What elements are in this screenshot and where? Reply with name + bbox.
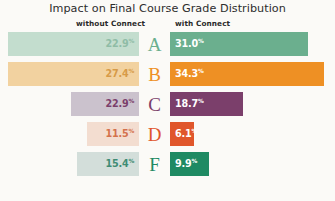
grade-letter: C [139, 90, 170, 120]
bar-value-without-connect: 11.5% [106, 129, 134, 139]
chart-title: Impact on Final Course Grade Distributio… [0, 2, 335, 15]
with-connect-bar-group: 18.7% [170, 92, 243, 116]
bar-value-without-connect: 22.9% [106, 39, 134, 49]
bar-with-connect: 9.9% [170, 152, 209, 176]
with-connect-bar-group: 6.1% [170, 122, 194, 146]
bar-value-without-connect: 27.4% [106, 69, 134, 79]
bar-without-connect: 22.9% [71, 92, 139, 116]
percent-sign: % [198, 98, 204, 104]
bar-with-connect: 31.0% [170, 32, 308, 56]
bar-with-connect: 34.3% [170, 62, 324, 86]
column-header-without-connect: without Connect [76, 19, 145, 28]
grade-row: 22.9%C18.7% [0, 90, 335, 120]
percent-sign: % [128, 38, 134, 44]
bar-value-with-connect: 31.0% [175, 39, 203, 49]
grade-row: 11.5%D6.1% [0, 120, 335, 150]
bar-value-with-connect: 34.3% [175, 69, 203, 79]
percent-sign: % [128, 68, 134, 74]
grade-letter: A [139, 30, 170, 60]
bar-value-without-connect: 15.4% [106, 159, 134, 169]
bar-without-connect: 15.4% [77, 152, 139, 176]
percent-sign: % [191, 158, 197, 164]
with-connect-bar-group: 34.3% [170, 62, 324, 86]
bar-value-with-connect: 6.1% [175, 129, 197, 139]
grade-distribution-chart: Impact on Final Course Grade Distributio… [0, 0, 335, 201]
without-connect-bar-group: 11.5% [87, 122, 139, 146]
grade-row: 15.4%F9.9% [0, 150, 335, 180]
grade-letter: D [139, 120, 170, 150]
grade-row: 22.9%A31.0% [0, 30, 335, 60]
grade-row: 27.4%B34.3% [0, 60, 335, 90]
with-connect-bar-group: 9.9% [170, 152, 209, 176]
percent-sign: % [128, 158, 134, 164]
bar-without-connect: 22.9% [8, 32, 139, 56]
grade-letter: F [139, 150, 170, 180]
without-connect-bar-group: 22.9% [71, 92, 139, 116]
without-connect-bar-group: 27.4% [8, 62, 139, 86]
without-connect-bar-group: 22.9% [8, 32, 139, 56]
bar-without-connect: 27.4% [8, 62, 139, 86]
percent-sign: % [128, 98, 134, 104]
grade-letter: B [139, 60, 170, 90]
bar-value-with-connect: 9.9% [175, 159, 197, 169]
with-connect-bar-group: 31.0% [170, 32, 308, 56]
percent-sign: % [128, 128, 134, 134]
percent-sign: % [198, 38, 204, 44]
bar-with-connect: 18.7% [170, 92, 243, 116]
chart-rows: 22.9%A31.0%27.4%B34.3%22.9%C18.7%11.5%D6… [0, 30, 335, 180]
bar-value-with-connect: 18.7% [175, 99, 203, 109]
bar-value-without-connect: 22.9% [106, 99, 134, 109]
bar-without-connect: 11.5% [87, 122, 139, 146]
without-connect-bar-group: 15.4% [77, 152, 139, 176]
percent-sign: % [191, 128, 197, 134]
column-header-with-connect: with Connect [175, 19, 230, 28]
percent-sign: % [198, 68, 204, 74]
bar-with-connect: 6.1% [170, 122, 194, 146]
